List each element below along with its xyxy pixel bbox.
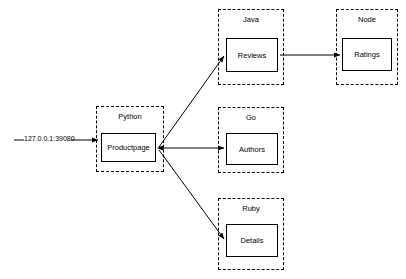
node-authors[interactable]: Authors	[226, 133, 278, 165]
node-label-reviews: Reviews	[238, 51, 266, 60]
edge-productpage-to-reviews	[159, 56, 224, 147]
diagram-canvas: 127.0.0.1:39080 Python Productpage Java …	[0, 0, 406, 279]
node-details[interactable]: Details	[226, 224, 278, 257]
node-label-details: Details	[241, 236, 264, 245]
cluster-label-python: Python	[97, 112, 163, 121]
cluster-label-go: Go	[219, 113, 283, 122]
node-label-ratings: Ratings	[354, 50, 379, 59]
cluster-label-ruby: Ruby	[219, 204, 283, 213]
node-reviews[interactable]: Reviews	[226, 38, 278, 72]
node-label-authors: Authors	[239, 145, 265, 154]
node-label-productpage: Productpage	[107, 143, 150, 152]
node-productpage[interactable]: Productpage	[101, 133, 156, 162]
cluster-label-java: Java	[219, 15, 283, 24]
ingress-endpoint-label: 127.0.0.1:39080	[24, 135, 75, 143]
edge-productpage-to-details	[159, 150, 224, 239]
cluster-label-node: Node	[337, 15, 397, 24]
node-ratings[interactable]: Ratings	[342, 38, 392, 71]
